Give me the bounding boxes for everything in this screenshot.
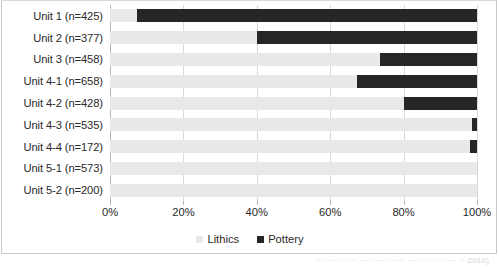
stacked-bar[interactable] <box>110 31 477 44</box>
bar-segment-lithics[interactable] <box>110 118 472 131</box>
gridline <box>477 5 478 201</box>
bar-segment-pottery[interactable] <box>257 31 477 44</box>
axis-tick-mark <box>183 201 184 205</box>
value-axis: 0%20%40%60%80%100% <box>110 201 477 223</box>
bar-segment-pottery[interactable] <box>472 118 477 131</box>
category-label: Unit 4-2 (n=428) <box>2 92 108 114</box>
chart-legend: LithicsPottery <box>2 233 498 245</box>
stacked-bar[interactable] <box>110 140 477 153</box>
category-label: Unit 4-1 (n=658) <box>2 70 108 92</box>
bar-row[interactable] <box>110 179 477 201</box>
bar-segment-pottery[interactable] <box>357 75 477 88</box>
legend-swatch-icon <box>257 236 264 243</box>
legend-label: Lithics <box>207 233 239 245</box>
bar-row[interactable] <box>110 92 477 114</box>
axis-tick-mark <box>404 201 405 205</box>
stacked-bar[interactable] <box>110 118 477 131</box>
legend-item-lithics[interactable]: Lithics <box>196 233 239 245</box>
bar-segment-lithics[interactable] <box>110 97 404 110</box>
stacked-bar[interactable] <box>110 9 477 22</box>
bar-segment-lithics[interactable] <box>110 162 477 175</box>
bar-row[interactable] <box>110 49 477 71</box>
caption-fragment: ·· ···· ·· ···· ····· ···· ····· ··· ···… <box>0 256 499 268</box>
stacked-bar[interactable] <box>110 184 477 197</box>
bar-segment-lithics[interactable] <box>110 75 357 88</box>
legend-item-pottery[interactable]: Pottery <box>257 233 303 245</box>
category-label: Unit 4-4 (n=172) <box>2 136 108 158</box>
category-label: Unit 5-1 (n=573) <box>2 157 108 179</box>
bar-segment-lithics[interactable] <box>110 31 257 44</box>
bar-segment-pottery[interactable] <box>380 53 477 66</box>
axis-tick-label: 0% <box>102 206 118 218</box>
bar-row[interactable] <box>110 157 477 179</box>
axis-tick-label: 40% <box>246 206 268 218</box>
bar-row[interactable] <box>110 114 477 136</box>
axis-tick-mark <box>110 201 111 205</box>
axis-tick-mark <box>330 201 331 205</box>
category-label: Unit 1 (n=425) <box>2 5 108 27</box>
bar-row[interactable] <box>110 136 477 158</box>
axis-tick-label: 80% <box>392 206 414 218</box>
bar-segment-lithics[interactable] <box>110 53 380 66</box>
axis-tick-label: 20% <box>172 206 194 218</box>
bar-row[interactable] <box>110 5 477 27</box>
stacked-bar[interactable] <box>110 75 477 88</box>
bar-segment-pottery[interactable] <box>404 97 477 110</box>
axis-tick-mark <box>257 201 258 205</box>
chart-frame: Unit 1 (n=425)Unit 2 (n=377)Unit 3 (n=45… <box>1 0 497 254</box>
legend-swatch-icon <box>196 236 203 243</box>
bar-segment-pottery[interactable] <box>137 9 477 22</box>
stacked-bar[interactable] <box>110 162 477 175</box>
stacked-bar[interactable] <box>110 97 477 110</box>
category-label: Unit 5-2 (n=200) <box>2 179 108 201</box>
bar-segment-pottery[interactable] <box>470 140 477 153</box>
bar-row[interactable] <box>110 27 477 49</box>
bar-row[interactable] <box>110 70 477 92</box>
plot-area <box>110 5 477 201</box>
axis-tick-label: 100% <box>463 206 492 218</box>
category-label: Unit 2 (n=377) <box>2 27 108 49</box>
category-axis: Unit 1 (n=425)Unit 2 (n=377)Unit 3 (n=45… <box>2 5 108 201</box>
bar-segment-lithics[interactable] <box>110 184 477 197</box>
bar-segment-lithics[interactable] <box>110 140 470 153</box>
category-label: Unit 4-3 (n=535) <box>2 114 108 136</box>
axis-tick-label: 60% <box>319 206 341 218</box>
axis-tick-mark <box>477 201 478 205</box>
category-label: Unit 3 (n=458) <box>2 49 108 71</box>
bar-series-container <box>110 5 477 201</box>
legend-label: Pottery <box>268 233 303 245</box>
stacked-bar[interactable] <box>110 53 477 66</box>
bar-segment-lithics[interactable] <box>110 9 137 22</box>
